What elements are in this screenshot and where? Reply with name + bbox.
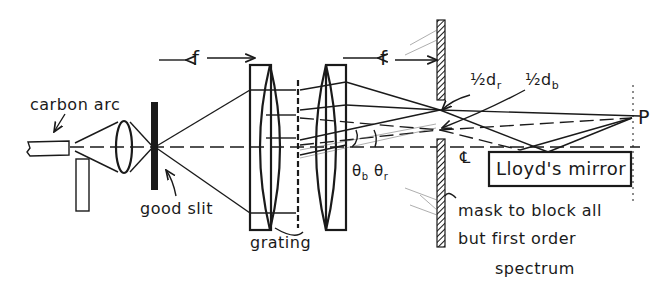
optical-diagram: carbon arc good slit f f grating ½dr ½db…	[0, 0, 657, 296]
theta-symbol: θ	[374, 162, 384, 180]
diagram-drawing	[0, 0, 657, 296]
theta-symbol: θ	[352, 162, 362, 180]
rays-slit-to-collimator	[155, 90, 250, 213]
label-good-slit: good slit	[140, 201, 213, 217]
label-centerline: ℄	[460, 150, 471, 166]
subscript-r: r	[384, 171, 389, 182]
label-lloyds-mirror: Lloyd's mirror	[496, 160, 626, 178]
subscript-b: b	[552, 79, 559, 92]
label-mask-line2: but first order	[458, 231, 576, 247]
focal-length-arrows	[159, 58, 437, 60]
carbon-arc-electrodes	[27, 141, 89, 211]
label-theta-r: θr	[374, 164, 388, 182]
label-half-db: ½db	[525, 72, 559, 91]
collimated-rays	[250, 90, 296, 213]
label-mask-line1: mask to block all	[458, 203, 602, 219]
half-d-text: ½d	[525, 70, 552, 89]
label-carbon-arc: carbon arc	[30, 97, 120, 113]
label-half-dr: ½dr	[470, 72, 502, 91]
label-mask-line3: spectrum	[495, 261, 575, 277]
label-f-2: f	[380, 48, 388, 68]
label-grating: grating	[250, 235, 311, 251]
half-d-text: ½d	[470, 70, 497, 89]
label-point-p: P	[638, 108, 650, 127]
subscript-b: b	[362, 171, 369, 182]
label-f-1: f	[192, 48, 200, 68]
label-theta-b: θb	[352, 164, 369, 182]
subscript-r: r	[497, 79, 502, 92]
